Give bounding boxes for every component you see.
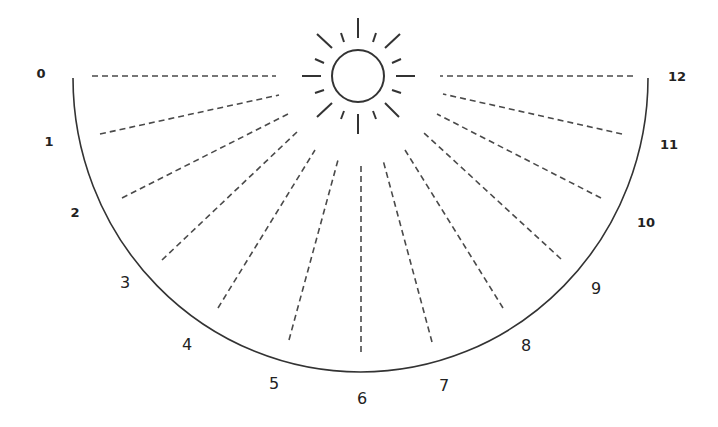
hour-label-8: 8: [521, 336, 531, 355]
hour-label-10: 10: [637, 215, 655, 230]
hour-label-4: 4: [182, 335, 192, 354]
hour-label-0: 0: [36, 66, 45, 81]
hour-label-2: 2: [70, 205, 79, 220]
hour-label-9: 9: [591, 279, 601, 298]
hour-label-7: 7: [439, 376, 449, 395]
hour-label-5: 5: [269, 374, 279, 393]
hour-label-12: 12: [668, 69, 686, 84]
hour-label-3: 3: [120, 273, 130, 292]
hour-label-1: 1: [44, 134, 53, 149]
sun-disk: [332, 50, 384, 102]
hour-label-11: 11: [660, 137, 678, 152]
sundial-diagram: 0123456789101112: [0, 0, 718, 427]
hour-label-6: 6: [357, 389, 367, 408]
